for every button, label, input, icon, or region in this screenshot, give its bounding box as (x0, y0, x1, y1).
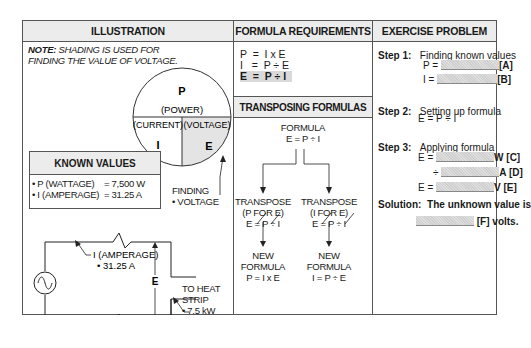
answer-e-row: E = V [E] (418, 182, 517, 193)
header-formula-requirements: FORMULA REQUIREMENTS (234, 21, 372, 42)
answer-b-row: I = [B] (423, 74, 511, 85)
column-divider (372, 21, 373, 314)
note-line1: SHADING IS USED FOR (56, 44, 159, 55)
known-value-label: • I (AMPERAGE) (32, 189, 104, 200)
current-letter: I (156, 139, 159, 151)
worksheet-table: ILLUSTRATION FORMULA REQUIREMENTS EXERCI… (22, 20, 497, 315)
transpose-target: (P FOR E) (225, 207, 301, 218)
power-word: (POWER) (161, 104, 203, 115)
voltage-word: (VOLTAGE) (183, 120, 230, 130)
new-formula-text: I = P ÷ E (291, 272, 367, 283)
arrow-up-icon (152, 242, 158, 248)
solution: Solution: The unknown value is (378, 199, 531, 210)
answer-d-row: ÷ A [D] (433, 167, 523, 178)
solution-label: Solution: (378, 199, 421, 210)
step-2-label: Step 2: (378, 106, 411, 117)
known-value-amount: = 31.25 A (104, 189, 142, 200)
answer-c-tag: W [C] (494, 152, 520, 163)
transpose-formula-struck: E = P ÷ I (225, 218, 301, 229)
heat-strip-line3: • 7.5 kW (182, 305, 220, 316)
answer-a-row: P = [A] (423, 60, 513, 71)
answer-e-tag: V [E] (494, 182, 517, 193)
answer-a-blank[interactable] (441, 60, 499, 70)
base-formula: FORMULA E = P ÷ I (263, 122, 343, 144)
new-formula-text: P = I x E (225, 272, 301, 283)
arrow-down-icon (260, 241, 266, 247)
new-label: NEW (225, 250, 301, 261)
step-2-formula: E = P ÷ I (418, 113, 456, 124)
transpose-label: TRANSPOSE (225, 196, 301, 207)
known-values-title: KNOWN VALUES (30, 152, 160, 175)
transpose-formula-struck: E = P ÷ I (291, 218, 367, 229)
answer-d-blank[interactable] (441, 167, 499, 177)
formula-label: FORMULA (291, 261, 367, 272)
finding-line2: • VOLTAGE (172, 196, 219, 207)
arrow-down-icon (326, 241, 332, 247)
power-letter: P (178, 85, 185, 97)
new-formula-p: NEW FORMULA P = I x E (225, 250, 301, 283)
transposing-header: TRANSPOSING FORMULAS (234, 96, 372, 118)
bottom-wire (45, 299, 171, 315)
answer-b-tag: [B] (497, 74, 511, 85)
heat-strip-line2: STRIP (182, 294, 220, 305)
answer-e-blank[interactable] (436, 182, 494, 192)
transpose-label: TRANSPOSE (291, 196, 367, 207)
transpose-i-for-e: TRANSPOSE (I FOR E) E = P ÷ I (291, 196, 367, 229)
new-formula-i: NEW FORMULA I = P ÷ E (291, 250, 367, 283)
header-exercise-problem: EXERCISE PROBLEM (373, 21, 496, 42)
formula-requirements-list: P = I x E I = P ÷ E E = P ÷ I (240, 49, 292, 82)
heat-strip-label-text: TO HEAT STRIP • 7.5 kW (182, 283, 220, 316)
known-value-label: • P (WATTAGE) (32, 178, 104, 189)
answer-f-blank[interactable] (416, 216, 474, 226)
formula-label: FORMULA (263, 122, 343, 133)
new-label: NEW (291, 250, 367, 261)
i-equals: I = (423, 74, 434, 85)
answer-c-blank[interactable] (436, 152, 494, 162)
transposing-arrows (234, 146, 372, 316)
answer-d-tag: A [D] (499, 167, 523, 178)
transpose-p-for-e: TRANSPOSE (P FOR E) E = P ÷ I (225, 196, 301, 229)
circuit-voltage-label: E (152, 276, 159, 287)
amperage-label: I (AMPERAGE) (93, 249, 158, 260)
finding-line1: FINDING (172, 185, 209, 196)
known-value-amount: = 7,500 W (104, 178, 145, 189)
answer-b-blank[interactable] (437, 74, 497, 84)
formula-label: FORMULA (225, 261, 301, 272)
known-values-box: KNOWN VALUES • P (WATTAGE) = 7,500 W • I… (29, 151, 161, 209)
divide-sign: ÷ (433, 167, 439, 178)
current-word: (CURRENT) (133, 120, 183, 130)
e-equals: E = (418, 182, 433, 193)
p-equals: P = (423, 60, 438, 71)
finding-voltage-label: FINDING • VOLTAGE (172, 185, 219, 207)
answer-a-tag: [A] (499, 60, 513, 71)
answer-f-row: [F] volts. (416, 216, 518, 227)
step-1-label: Step 1: (378, 50, 411, 61)
note-label: NOTE: (28, 44, 56, 55)
known-value-row: • P (WATTAGE) = 7,500 W (32, 178, 158, 189)
formula-line-highlighted: E = P ÷ I (240, 71, 292, 82)
answer-f-tag: [F] volts. (477, 216, 519, 227)
answer-c-row: E = W [C] (418, 152, 520, 163)
known-value-row: • I (AMPERAGE) = 31.25 A (32, 189, 158, 200)
voltage-letter: E (205, 140, 212, 152)
e-equals: E = (418, 152, 433, 163)
arrow-down-icon (326, 187, 332, 194)
header-illustration: ILLUSTRATION (23, 21, 233, 42)
solution-text: The unknown value is (427, 199, 531, 210)
formula-text: E = P ÷ I (263, 133, 343, 144)
amperage-value: • 31.25 A (97, 260, 136, 271)
arrow-down-icon (260, 187, 266, 194)
heat-strip-line1: TO HEAT (182, 283, 220, 294)
step-3-label: Step 3: (378, 142, 411, 153)
transpose-target: (I FOR E) (291, 207, 367, 218)
